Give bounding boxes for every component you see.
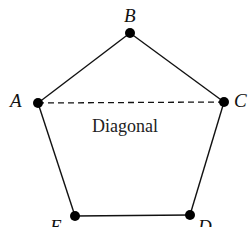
label-b: B: [124, 5, 136, 26]
diagonal-label: Diagonal: [92, 116, 158, 136]
side-ab: [38, 33, 130, 103]
vertex-e: [70, 211, 80, 221]
vertex-a: [33, 98, 43, 108]
pentagon-diagram: B A C E D Diagonal: [0, 0, 250, 227]
diagonal-ac: [38, 102, 224, 103]
label-e: E: [49, 216, 62, 227]
side-cd: [190, 102, 224, 215]
vertex-c: [219, 97, 229, 107]
label-d: D: [197, 216, 212, 227]
label-a: A: [8, 90, 22, 111]
side-ea: [38, 103, 75, 216]
vertex-b: [125, 28, 135, 38]
label-c: C: [234, 90, 247, 111]
vertex-d: [185, 210, 195, 220]
side-bc: [130, 33, 224, 102]
side-de: [75, 215, 190, 216]
